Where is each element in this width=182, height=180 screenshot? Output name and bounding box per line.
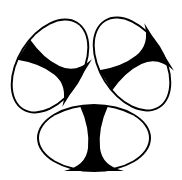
trefoil-emblem (0, 0, 182, 180)
oval-bottom (37, 104, 151, 172)
